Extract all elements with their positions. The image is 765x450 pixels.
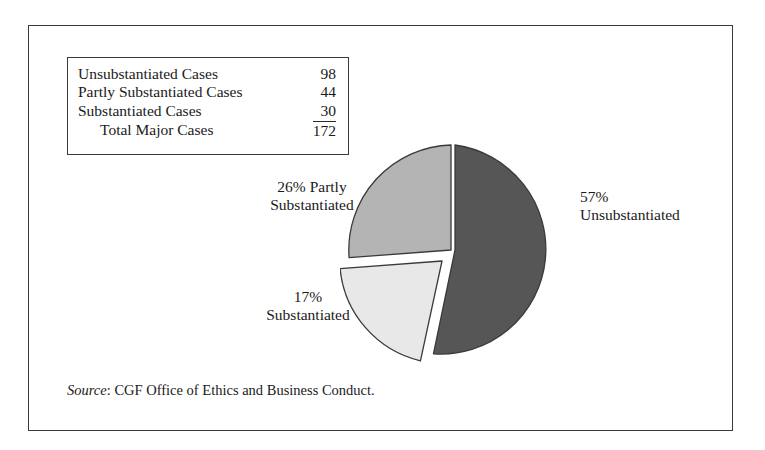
pie-chart-svg bbox=[340, 135, 580, 375]
pie-label-partly-line2: Substantiated bbox=[222, 196, 402, 214]
row-value-substantiated: 30 bbox=[290, 101, 336, 120]
row-value-total: 172 bbox=[313, 121, 336, 139]
table-row: Unsubstantiated Cases 98 bbox=[78, 64, 336, 83]
figure-root: Unsubstantiated Cases 98 Partly Substant… bbox=[0, 0, 765, 450]
source-note-text: : CGF Office of Ethics and Business Cond… bbox=[107, 382, 375, 398]
table-row: Substantiated Cases 30 bbox=[78, 101, 336, 120]
row-value-total-cell: 172 bbox=[290, 120, 336, 141]
pie-label-unsubstantiated-line2: Unsubstantiated bbox=[580, 206, 760, 224]
pie-label-partly-line1: 26% Partly bbox=[222, 178, 402, 196]
table-row-total: Total Major Cases 172 bbox=[78, 120, 336, 141]
pie-label-substantiated-line2: Substantiated bbox=[228, 306, 388, 324]
row-value-unsubstantiated: 98 bbox=[290, 64, 336, 83]
totals-table-box: Unsubstantiated Cases 98 Partly Substant… bbox=[67, 57, 349, 155]
pie-label-substantiated-line1: 17% bbox=[228, 288, 388, 306]
row-value-partly-substantiated: 44 bbox=[290, 83, 336, 102]
source-note: Source: CGF Office of Ethics and Busines… bbox=[67, 382, 375, 399]
row-label-total: Total Major Cases bbox=[78, 120, 290, 141]
pie-label-unsubstantiated-line1: 57% bbox=[580, 188, 760, 206]
pie-label-substantiated: 17% Substantiated bbox=[228, 288, 388, 325]
pie-label-partly-substantiated: 26% Partly Substantiated bbox=[222, 178, 402, 215]
table-row: Partly Substantiated Cases 44 bbox=[78, 83, 336, 102]
pie-label-unsubstantiated: 57% Unsubstantiated bbox=[580, 188, 760, 225]
pie-chart bbox=[340, 135, 580, 375]
row-label-substantiated: Substantiated Cases bbox=[78, 101, 290, 120]
row-label-unsubstantiated: Unsubstantiated Cases bbox=[78, 64, 290, 83]
totals-table: Unsubstantiated Cases 98 Partly Substant… bbox=[78, 64, 336, 140]
row-label-partly-substantiated: Partly Substantiated Cases bbox=[78, 83, 290, 102]
source-note-label: Source bbox=[67, 382, 107, 398]
